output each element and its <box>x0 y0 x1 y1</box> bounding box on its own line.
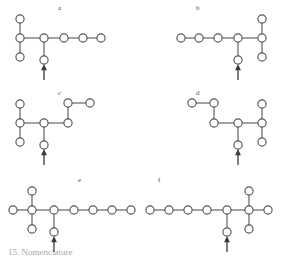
atom-node-f6 <box>223 228 231 236</box>
atom-node-f5 <box>223 206 231 214</box>
atom-node-e9 <box>108 206 116 214</box>
atom-node-c2 <box>16 119 24 127</box>
position-arrow-b <box>235 64 241 80</box>
atom-node-e4 <box>9 206 17 214</box>
atom-node-d1 <box>258 100 266 108</box>
arrow-head <box>235 149 241 155</box>
atom-node-a6 <box>60 34 68 42</box>
arrow-head <box>51 236 57 242</box>
atom-node-b8 <box>177 34 185 42</box>
atom-node-f9 <box>165 206 173 214</box>
atom-node-a5 <box>40 56 48 64</box>
atom-node-d3 <box>258 138 266 146</box>
atom-node-a8 <box>97 34 105 42</box>
atom-node-e6 <box>50 228 58 236</box>
atom-node-f8 <box>184 206 192 214</box>
position-arrow-a <box>41 64 47 80</box>
atom-node-f1 <box>245 187 253 195</box>
atom-node-a2 <box>16 34 24 42</box>
skeleton-graph-d <box>140 85 281 171</box>
panel-label-e: e <box>78 176 81 184</box>
skeleton-graph-a <box>0 0 141 86</box>
structure-panel-c <box>0 85 141 171</box>
figure-caption: 15. Nomenclature <box>8 247 72 257</box>
arrow-head <box>41 64 47 70</box>
atom-node-a1 <box>16 15 24 23</box>
bond-group <box>192 103 262 145</box>
atom-node-c4 <box>40 119 48 127</box>
structure-panel-f <box>140 172 281 258</box>
atom-node-b4 <box>234 34 242 42</box>
atom-node-d7 <box>210 99 218 107</box>
figure-sheet: abcdef <box>0 0 281 258</box>
panel-label-c: c <box>58 89 61 97</box>
atom-node-d5 <box>234 141 242 149</box>
atom-group <box>177 15 266 64</box>
panel-label-b: b <box>196 4 200 12</box>
atom-node-c3 <box>16 138 24 146</box>
atom-node-e7 <box>70 206 78 214</box>
atom-node-e10 <box>127 206 135 214</box>
atom-group <box>16 99 94 149</box>
arrow-head <box>224 236 230 242</box>
structure-panel-a <box>0 0 141 86</box>
atom-node-d8 <box>188 99 196 107</box>
atom-node-b3 <box>258 53 266 61</box>
atom-node-d2 <box>258 119 266 127</box>
atom-node-e8 <box>89 206 97 214</box>
structure-panel-d <box>140 85 281 171</box>
arrow-head <box>235 64 241 70</box>
position-arrow-d <box>235 149 241 165</box>
panel-label-f: f <box>158 176 160 184</box>
atom-node-f2 <box>245 206 253 214</box>
atom-node-f3 <box>245 225 253 233</box>
atom-group <box>188 99 266 149</box>
caption-strip: 15. Nomenclature <box>0 247 281 258</box>
structure-panel-e <box>0 172 141 258</box>
skeleton-graph-c <box>0 85 141 171</box>
atom-group <box>9 187 135 236</box>
atom-node-b2 <box>258 34 266 42</box>
atom-node-e3 <box>28 225 36 233</box>
skeleton-graph-f <box>140 172 281 258</box>
atom-node-f4 <box>264 206 272 214</box>
atom-node-b5 <box>234 56 242 64</box>
atom-node-d6 <box>210 119 218 127</box>
atom-group <box>16 15 105 64</box>
atom-node-e5 <box>50 206 58 214</box>
atom-node-e1 <box>28 187 36 195</box>
atom-node-a3 <box>16 53 24 61</box>
atom-node-b7 <box>195 34 203 42</box>
atom-node-c5 <box>40 141 48 149</box>
atom-node-b1 <box>258 15 266 23</box>
position-arrow-c <box>41 149 47 165</box>
atom-node-c6 <box>64 119 72 127</box>
panel-label-d: d <box>196 89 200 97</box>
skeleton-graph-e <box>0 172 141 258</box>
structure-panel-b <box>140 0 281 86</box>
atom-node-c8 <box>86 99 94 107</box>
panel-label-a: a <box>58 4 61 12</box>
atom-group <box>146 187 272 236</box>
atom-node-d4 <box>234 119 242 127</box>
atom-node-f10 <box>146 206 154 214</box>
bond-group <box>20 103 90 145</box>
arrow-head <box>41 149 47 155</box>
atom-node-a4 <box>40 34 48 42</box>
atom-node-c7 <box>64 99 72 107</box>
atom-node-c1 <box>16 100 24 108</box>
atom-node-b6 <box>214 34 222 42</box>
skeleton-graph-b <box>140 0 281 86</box>
atom-node-e2 <box>28 206 36 214</box>
atom-node-f7 <box>203 206 211 214</box>
atom-node-a7 <box>79 34 87 42</box>
